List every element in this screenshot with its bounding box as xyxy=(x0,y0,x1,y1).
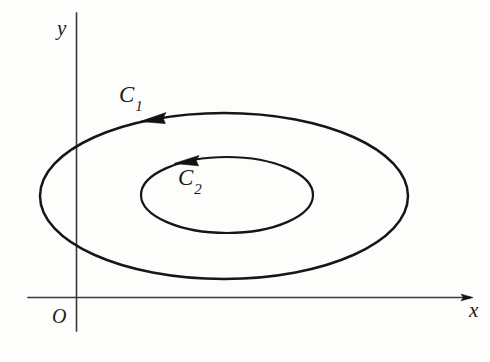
figure-canvas: y x O C1 C2 xyxy=(0,0,490,362)
curve-c2-label-base: C xyxy=(178,165,193,190)
curve-c1-group xyxy=(40,113,408,279)
curve-c1-direction-arrow-icon xyxy=(140,113,166,124)
x-axis-group xyxy=(28,294,473,301)
curve-c2-label-subscript: 2 xyxy=(194,181,202,197)
y-axis-label: y xyxy=(57,18,66,39)
curve-c2-label: C2 xyxy=(178,166,201,194)
curve-c2-group xyxy=(141,156,313,234)
curve-c1-path xyxy=(40,113,408,279)
x-axis-label: x xyxy=(469,300,478,321)
curve-c1-label-base: C xyxy=(119,82,134,107)
curve-c1-label: C1 xyxy=(119,83,142,111)
figure-svg xyxy=(0,0,490,362)
origin-label: O xyxy=(52,306,66,326)
curve-c2-path xyxy=(141,157,313,233)
curve-c1-label-subscript: 1 xyxy=(135,98,143,114)
